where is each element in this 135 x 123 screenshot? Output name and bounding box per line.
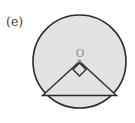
center-label-o: O: [76, 47, 85, 59]
panel-label: (e): [6, 14, 23, 29]
figure-container: (e) O: [0, 0, 135, 123]
geometry-figure: (e) O: [0, 0, 135, 123]
